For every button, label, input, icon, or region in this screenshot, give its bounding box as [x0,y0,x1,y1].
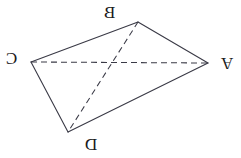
vertex-label-d: D [85,136,97,153]
edge-c-b [31,22,138,62]
edge-b-a [138,22,208,63]
vertex-label-c: C [6,50,17,67]
geometry-figure: A B C D [0,0,241,158]
diagonal-c-a [31,62,208,63]
figure-canvas [0,0,241,158]
vertex-label-b: B [104,4,115,21]
quadrilateral-diagonals [31,22,208,132]
vertex-label-a: A [221,55,233,72]
edge-a-d [68,63,208,132]
quadrilateral-edges [31,22,208,132]
edge-d-c [31,62,68,132]
diagonal-b-d [68,22,138,132]
